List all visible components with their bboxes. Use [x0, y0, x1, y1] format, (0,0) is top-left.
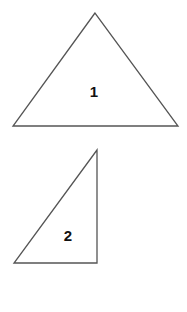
triangle-1-label: 1: [90, 83, 98, 100]
triangle-2-label: 2: [64, 227, 72, 244]
diagram-canvas: 1 2: [0, 0, 187, 312]
triangle-1: [13, 13, 178, 126]
triangle-2: [14, 150, 97, 263]
